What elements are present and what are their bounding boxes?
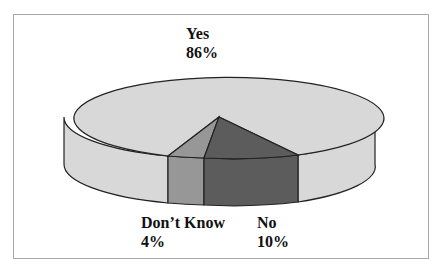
- label-no-name: No: [257, 213, 289, 232]
- label-no-pct: 10%: [257, 232, 289, 251]
- slice-no-side: [204, 155, 298, 206]
- label-dont-know-name: Don’t Know: [141, 213, 225, 232]
- label-dont-know: Don’t Know 4%: [141, 213, 225, 251]
- label-no: No 10%: [257, 213, 289, 251]
- label-dont-know-pct: 4%: [141, 232, 225, 251]
- label-yes: Yes 86%: [186, 24, 218, 62]
- slice-dont-know-side: [168, 156, 204, 205]
- label-yes-pct: 86%: [186, 43, 218, 62]
- label-yes-name: Yes: [186, 24, 218, 43]
